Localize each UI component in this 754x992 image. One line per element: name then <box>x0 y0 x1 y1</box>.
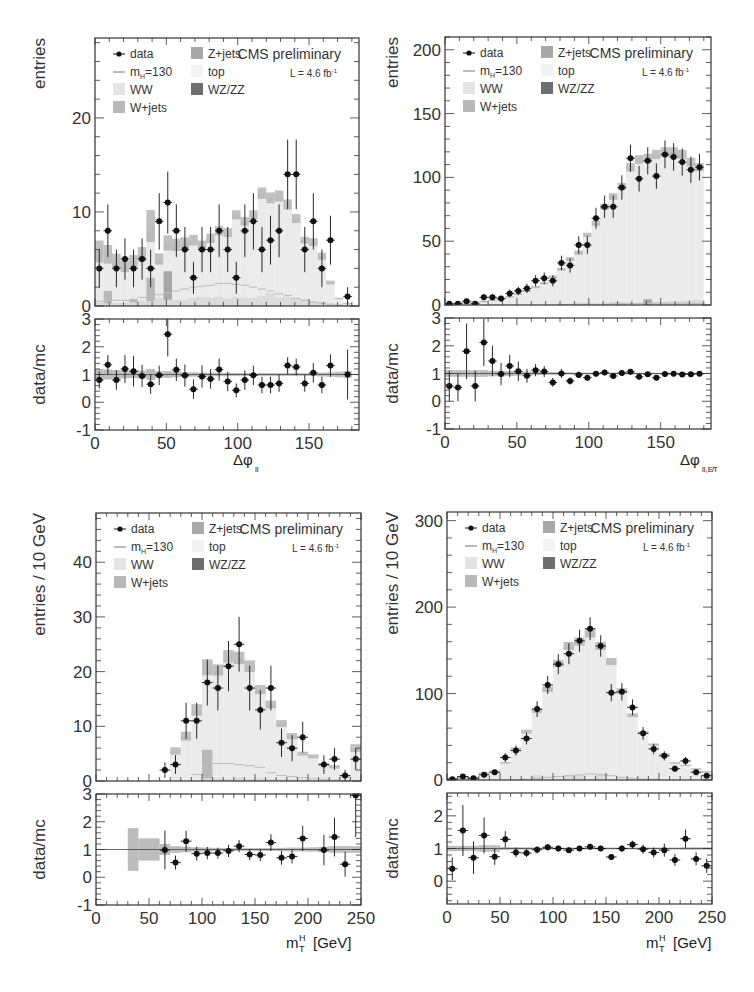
y-tick-label: 50 <box>422 232 441 251</box>
ratio-point <box>550 379 556 385</box>
ratio-point <box>688 371 694 377</box>
ratio-point <box>105 362 111 368</box>
data-point <box>327 237 333 243</box>
ratio-y-tick-label: 0 <box>434 872 443 891</box>
data-point <box>173 228 179 234</box>
data-point <box>533 278 539 284</box>
data-point <box>162 767 168 773</box>
data-point <box>131 265 137 271</box>
ratio-point <box>672 857 678 863</box>
data-point <box>577 638 583 644</box>
data-point <box>576 242 582 248</box>
ratio-y-tick-label: 3 <box>432 309 441 328</box>
legend-item-wz-zz: WZ/ZZ <box>191 83 245 97</box>
ratio-point <box>464 348 470 354</box>
ratio-point <box>492 854 498 860</box>
data-point <box>671 154 677 160</box>
svg-text:mH=130: mH=130 <box>480 64 522 79</box>
data-point <box>645 158 651 164</box>
data-point <box>688 167 694 173</box>
svg-text:WZ/ZZ: WZ/ZZ <box>558 82 595 96</box>
svg-text:T: T <box>659 944 665 954</box>
data-point <box>276 228 282 234</box>
x-tick-label: 0 <box>91 909 100 928</box>
ratio-point <box>446 383 452 389</box>
y-tick-label: 200 <box>415 598 443 617</box>
ratio-point <box>481 832 487 838</box>
luminosity-label: L = 4.6 fb-1 <box>292 543 340 554</box>
ratio-point <box>593 371 599 377</box>
legend-item-data: data <box>114 522 155 536</box>
ratio-plot-area <box>445 319 711 401</box>
ratio-point <box>587 844 593 850</box>
data-point <box>545 682 551 688</box>
main-plot-area <box>445 140 704 306</box>
legend-item-data: data <box>465 521 506 535</box>
svg-text:WZ/ZZ: WZ/ZZ <box>208 83 245 97</box>
data-point <box>173 762 179 768</box>
x-axis-label: m <box>286 934 299 951</box>
data-point <box>653 173 659 179</box>
svg-text:top: top <box>208 65 225 79</box>
x-tick-label: 50 <box>157 434 176 453</box>
data-point <box>704 773 710 779</box>
y-tick-label: 40 <box>73 553 92 572</box>
ratio-point <box>545 844 551 850</box>
data-point <box>651 746 657 752</box>
ratio-point <box>165 331 171 337</box>
ratio-point <box>567 378 573 384</box>
svg-text:ll,E̸T: ll,E̸T <box>702 465 718 474</box>
ratio-point <box>242 377 248 383</box>
ratio-point <box>233 387 239 393</box>
chart-panel-dphi_ll: 01020entriesdatamH=130WWW+jetsZ+jetstopW… <box>30 38 359 474</box>
data-point <box>204 680 210 686</box>
ratio-point <box>472 383 478 389</box>
data-point <box>257 707 263 713</box>
figure-caption-fragment <box>40 984 740 992</box>
legend-item-ww: WW <box>114 558 154 572</box>
ratio-point <box>515 368 521 374</box>
data-point <box>449 776 455 782</box>
svg-text:WW: WW <box>131 558 154 572</box>
ratio-point <box>216 367 222 373</box>
data-point <box>156 218 162 224</box>
data-point <box>481 294 487 300</box>
ratio-point <box>498 371 504 377</box>
data-point <box>342 773 348 779</box>
ratio-plot-area <box>95 312 359 399</box>
data-point <box>302 247 308 253</box>
data-point <box>215 685 221 691</box>
ratio-point <box>327 363 333 369</box>
data-point <box>513 748 519 754</box>
svg-text:Z+jets: Z+jets <box>558 46 591 60</box>
ratio-y-tick-label: 1 <box>82 366 91 385</box>
ratio-point <box>162 847 168 853</box>
ratio-y-tick-label: -1 <box>76 421 91 440</box>
ratio-y-tick-label: 1 <box>434 840 443 859</box>
legend: datamH=130WWW+jetsZ+jetstopWZ/ZZCMS prel… <box>114 521 343 590</box>
svg-text:WZ/ZZ: WZ/ZZ <box>560 557 597 571</box>
data-point <box>498 296 504 302</box>
data-point <box>242 228 248 234</box>
legend-item-w-jets: W+jets <box>465 575 519 589</box>
legend-item-mh-130: mH=130 <box>465 539 524 554</box>
svg-text:W+jets: W+jets <box>131 576 168 590</box>
data-point <box>550 278 556 284</box>
legend-item-z-jets: Z+jets <box>192 522 242 536</box>
data-point <box>216 228 222 234</box>
ratio-point <box>139 373 145 379</box>
ratio-y-tick-label: -1 <box>77 896 92 915</box>
ratio-y-tick-label: 2 <box>83 813 92 832</box>
ratio-point <box>215 850 221 856</box>
svg-text:H: H <box>659 933 666 943</box>
data-point <box>507 291 513 297</box>
ratio-point <box>236 843 242 849</box>
legend-item-z-jets: Z+jets <box>191 47 241 61</box>
data-point <box>567 262 573 268</box>
legend: datamH=130WWW+jetsZ+jetstopWZ/ZZCMS prel… <box>463 45 693 114</box>
legend: datamH=130WWW+jetsZ+jetstopWZ/ZZCMS prel… <box>465 520 694 589</box>
data-point <box>279 740 285 746</box>
x-axis-label: m <box>646 934 659 951</box>
legend-item-wz-zz: WZ/ZZ <box>192 558 246 572</box>
legend-item-w-jets: W+jets <box>113 101 167 115</box>
